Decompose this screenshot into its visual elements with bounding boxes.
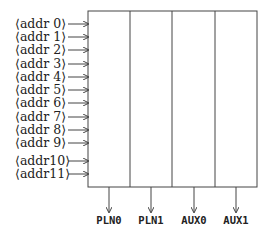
- address-label: ⟨addr 2⟩: [15, 42, 66, 57]
- address-input: ⟨addr 9⟩: [15, 135, 88, 150]
- address-input: ⟨addr 2⟩: [15, 42, 88, 57]
- address-label: ⟨addr11⟩: [15, 166, 70, 181]
- address-label: ⟨addr 9⟩: [15, 135, 66, 150]
- address-inputs: ⟨addr 0⟩⟨addr 1⟩⟨addr 2⟩⟨addr 3⟩⟨addr 4⟩…: [15, 16, 88, 181]
- plane-label: AUX0: [181, 214, 206, 226]
- address-input: ⟨addr 6⟩: [15, 95, 88, 110]
- diagram-svg: ⟨addr 0⟩⟨addr 1⟩⟨addr 2⟩⟨addr 3⟩⟨addr 4⟩…: [0, 0, 275, 240]
- column-dividers: [130, 11, 215, 187]
- address-label: ⟨addr 6⟩: [15, 95, 66, 110]
- plane-output: AUX0: [181, 187, 206, 226]
- plane-outputs: PLN0PLN1AUX0AUX1: [96, 187, 248, 226]
- plane-label: PLN0: [96, 214, 121, 226]
- memory-plane-diagram: ⟨addr 0⟩⟨addr 1⟩⟨addr 2⟩⟨addr 3⟩⟨addr 4⟩…: [0, 0, 275, 240]
- plane-output: PLN1: [138, 187, 163, 226]
- address-input: ⟨addr11⟩: [15, 166, 88, 181]
- plane-label: AUX1: [223, 214, 248, 226]
- plane-output: PLN0: [96, 187, 121, 226]
- plane-output: AUX1: [223, 187, 248, 226]
- plane-label: PLN1: [138, 214, 163, 226]
